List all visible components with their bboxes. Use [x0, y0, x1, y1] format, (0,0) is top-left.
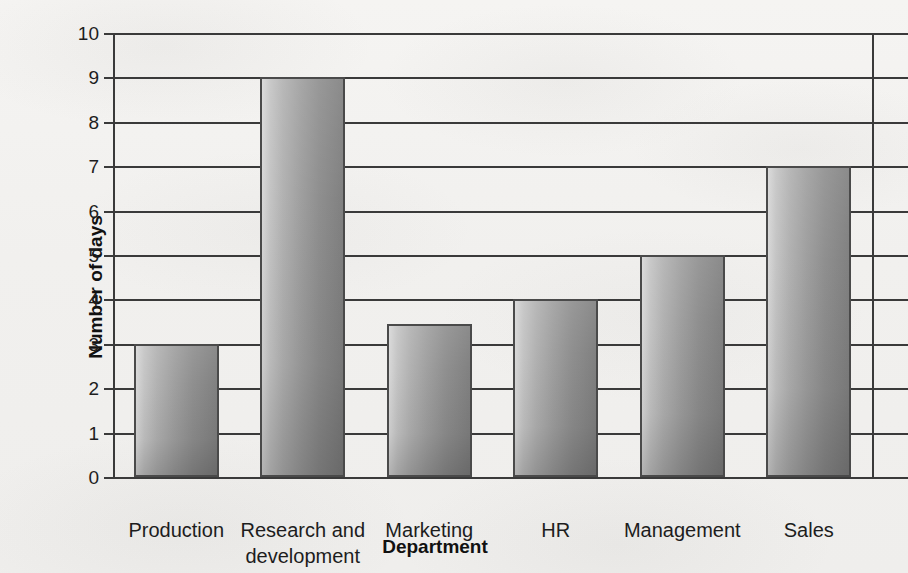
right-axis-tick: [872, 77, 908, 79]
y-axis-tick: [104, 33, 113, 35]
gridline: [113, 211, 872, 213]
right-axis-tick: [872, 33, 908, 35]
bar: [134, 344, 219, 477]
bar: [260, 77, 345, 477]
y-axis-tick: [104, 211, 113, 213]
y-axis-tick: [104, 477, 113, 479]
gridline: [113, 122, 872, 124]
y-axis-tick-label: 3: [88, 334, 99, 353]
y-axis-tick-label: 2: [88, 379, 99, 398]
y-axis-tick: [104, 388, 113, 390]
bar: [766, 166, 851, 477]
y-axis-tick-label: 4: [88, 290, 99, 309]
y-axis-tick-label: 10: [78, 24, 99, 43]
y-axis-tick: [104, 77, 113, 79]
right-axis-tick: [872, 255, 908, 257]
y-axis-tick-label: 8: [88, 112, 99, 131]
y-axis-tick-label: 9: [88, 68, 99, 87]
y-axis-tick: [104, 344, 113, 346]
bar: [513, 299, 598, 477]
right-axis-tick: [872, 122, 908, 124]
y-axis-tick-label: 5: [88, 246, 99, 265]
gridline: [113, 433, 872, 435]
gridline: [113, 388, 872, 390]
right-axis-tick: [872, 344, 908, 346]
y-axis-tick-label: 6: [88, 201, 99, 220]
bar: [387, 324, 472, 477]
gridline: [113, 477, 872, 479]
y-axis-tick-label: 1: [88, 423, 99, 442]
gridline: [113, 344, 872, 346]
x-axis-title: Department: [0, 536, 908, 558]
y-axis-tick: [104, 299, 113, 301]
x-axis-title-text: Department: [382, 536, 488, 558]
y-axis-tick: [104, 122, 113, 124]
right-axis-tick: [872, 299, 908, 301]
plot-area: 012345678910 ProductionResearch anddevel…: [113, 33, 872, 477]
gridline: [113, 255, 872, 257]
y-axis-tick-label: 0: [88, 468, 99, 487]
y-axis-tick: [104, 166, 113, 168]
right-axis-tick: [872, 433, 908, 435]
right-axis-tick: [872, 388, 908, 390]
gridline: [113, 166, 872, 168]
y-axis-tick: [104, 433, 113, 435]
gridline: [113, 33, 872, 35]
y-axis-tick: [104, 255, 113, 257]
bar-chart: Number of days 012345678910 ProductionRe…: [0, 0, 908, 573]
y-axis-tick-label: 7: [88, 157, 99, 176]
right-axis-tick: [872, 211, 908, 213]
gridline: [113, 77, 872, 79]
bar: [640, 255, 725, 477]
gridline: [113, 299, 872, 301]
right-axis-tick: [872, 477, 908, 479]
right-axis-tick: [872, 166, 908, 168]
